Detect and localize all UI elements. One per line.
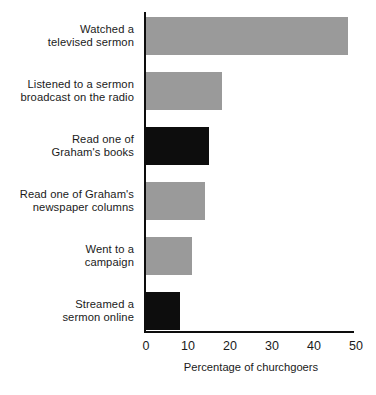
bar <box>146 182 205 220</box>
category-label: Went to acampaign <box>0 243 134 270</box>
category-label-line: televised sermon <box>0 36 134 50</box>
category-label-line: Went to a <box>0 243 134 257</box>
bar-chart: Watched atelevised sermonListened to a s… <box>0 0 376 395</box>
bar <box>146 292 180 330</box>
category-label: Read one ofGraham's books <box>0 133 134 160</box>
category-label-line: Listened to a sermon <box>0 78 134 92</box>
category-label-line: broadcast on the radio <box>0 91 134 105</box>
bar <box>146 17 348 55</box>
category-label: Listened to a sermonbroadcast on the rad… <box>0 78 134 105</box>
category-label-line: Read one of Graham's <box>0 188 134 202</box>
category-label-line: Graham's books <box>0 146 134 160</box>
y-axis-line <box>144 12 146 333</box>
category-label: Streamed asermon online <box>0 298 134 325</box>
category-label-line: campaign <box>0 256 134 270</box>
bar <box>146 127 209 165</box>
x-tick-label: 40 <box>307 338 321 354</box>
category-axis-labels: Watched atelevised sermonListened to a s… <box>0 0 140 330</box>
x-tick-label: 50 <box>349 338 363 354</box>
plot-area <box>146 10 356 330</box>
x-axis-line <box>144 331 354 333</box>
category-label-line: Read one of <box>0 133 134 147</box>
category-label-line: newspaper columns <box>0 201 134 215</box>
x-axis-ticks: 01020304050 <box>0 338 376 358</box>
category-label-line: Streamed a <box>0 298 134 312</box>
x-tick-label: 0 <box>143 338 150 354</box>
x-tick-label: 10 <box>181 338 195 354</box>
x-tick-label: 20 <box>223 338 237 354</box>
category-label-line: Watched a <box>0 23 134 37</box>
x-tick-label: 30 <box>265 338 279 354</box>
bar <box>146 237 192 275</box>
category-label: Watched atelevised sermon <box>0 23 134 50</box>
category-label: Read one of Graham'snewspaper columns <box>0 188 134 215</box>
category-label-line: sermon online <box>0 311 134 325</box>
x-axis-title: Percentage of churchgoers <box>146 360 356 374</box>
bar <box>146 72 222 110</box>
